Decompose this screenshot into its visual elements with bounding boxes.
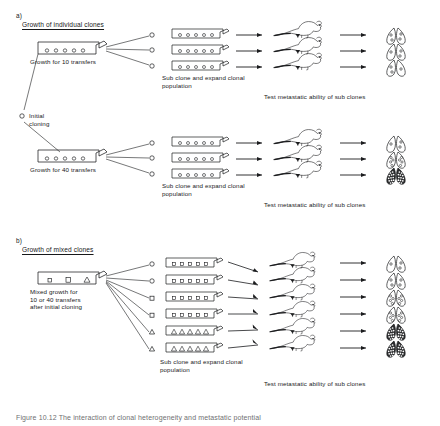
lung-dense xyxy=(387,168,405,184)
source-label-a2: Growth for 40 transfers xyxy=(30,166,96,174)
figure-caption-clip: Figure 10.12 The interaction of clonal h… xyxy=(16,414,436,426)
arrows-to-mice-a1 xyxy=(236,33,262,69)
initial-cloning-branch xyxy=(20,54,60,152)
arrows-to-lungs-b1 xyxy=(340,261,366,350)
lungs-a1 xyxy=(387,28,405,76)
figure-caption: Figure 10.12 The interaction of clonal h… xyxy=(16,414,261,422)
fan-lines-a2 xyxy=(106,141,154,176)
assay-label-b1: Test metastatic ability of sub clones xyxy=(264,380,365,388)
section-a-marker: a) xyxy=(16,12,22,20)
subclone-note-a2: Sub clone and expand clonal population xyxy=(162,182,245,197)
initial-cloning-label: Initial cloning xyxy=(29,112,49,127)
fan-lines-b1 xyxy=(106,262,155,351)
mice-a2 xyxy=(274,129,322,178)
source-label-b1: Mixed growth for 10 or 40 transfers afte… xyxy=(30,288,82,311)
source-flask-a1 xyxy=(38,41,107,54)
subclone-flasks-a2 xyxy=(172,137,229,178)
arrows-to-mice-a2 xyxy=(236,141,262,177)
assay-label-a1: Test metastatic ability of sub clones xyxy=(264,93,365,101)
subclone-note-a1: Sub clone and expand clonal population xyxy=(162,74,245,89)
section-b-heading: Growth of mixed clones xyxy=(22,246,94,254)
source-label-a1: Growth for 10 transfers xyxy=(30,58,96,66)
lungs-b1 xyxy=(387,256,405,357)
assay-label-a2: Test metastatic ability of sub clones xyxy=(264,201,365,209)
figure-container: a) Growth of individual clones Growth fo… xyxy=(0,0,440,426)
mice-b1 xyxy=(269,252,314,351)
source-flask-b1 xyxy=(38,271,107,284)
arrows-to-lungs-a2 xyxy=(340,141,366,177)
subclone-flasks-b1 xyxy=(166,258,223,352)
lung-dense xyxy=(387,341,405,357)
section-b-marker: b) xyxy=(16,237,22,245)
lungs-a2 xyxy=(387,136,405,184)
arrows-to-lungs-a1 xyxy=(340,33,366,69)
fan-lines-a1 xyxy=(106,33,154,68)
subclone-flasks-a1 xyxy=(172,29,229,70)
source-flask-a2 xyxy=(38,149,107,162)
mice-a1 xyxy=(274,21,322,70)
arrows-to-mice-b1 xyxy=(228,262,258,348)
lung-dense xyxy=(387,324,405,340)
subclone-note-b1: Sub clone and expand clonal population xyxy=(160,358,243,373)
section-a-heading: Growth of individual clones xyxy=(22,21,104,29)
